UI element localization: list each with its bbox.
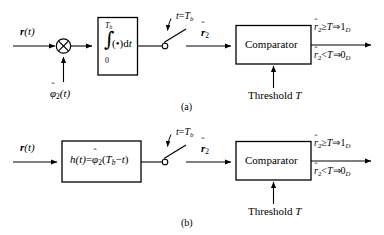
panel-a-sampling-arrow [168,19,171,31]
panel-b-sampling-time-label: t=Tb [176,127,193,138]
panel-a-integrand-label: (•)dt [112,38,132,49]
panel-a-input-label: r(t) [20,26,35,37]
panel-a-sampling-time-label: t=Tb [176,11,193,22]
panel-b-comparator-label: Comparator [245,155,298,166]
panel-a-switch-blade [164,29,186,43]
panel-b-switch-contact [162,159,168,165]
panel-a-decision-rule-low: ˆr2<T⇒0D [314,50,350,61]
panel-a-switch-contact [162,43,168,49]
panel-b-input-label: r(t) [20,142,35,153]
panel-b-sampled-statistic-label: ˆr2 [201,143,209,155]
panel-a-comparator-label: Comparator [245,39,298,50]
panel-b-decision-rule-high: ˆr2≥T⇒1D [314,138,350,149]
panel-b-threshold-label: Threshold T [248,206,301,217]
panel-a-sampled-statistic-label: ˆr2 [201,27,209,39]
panel-b-filter-equation: h(t)=ˆφ2(Tb−t) [70,154,128,166]
panel-a-caption: (a) [181,102,192,112]
panel-b-switch-blade [164,145,186,159]
panel-a-threshold-label: Threshold T [248,90,301,101]
panel-a-decision-rule-high: ˆr2≥T⇒1D [314,22,350,33]
panel-b-caption: (b) [181,218,193,228]
panel-b-decision-rule-low: ˆr2<T⇒0D [314,166,350,177]
panel-a-integral-lower-limit: 0 [105,57,109,65]
panel-b-sampling-arrow [168,135,171,147]
block-diagram-svg [0,0,384,235]
figure-canvas: r(t) ˆφ2(t) Tb ∫ 0 (•)dt t=Tb ˆr2 Compar… [0,0,384,235]
panel-a-local-signal-label: ˆφ2(t) [50,88,70,100]
